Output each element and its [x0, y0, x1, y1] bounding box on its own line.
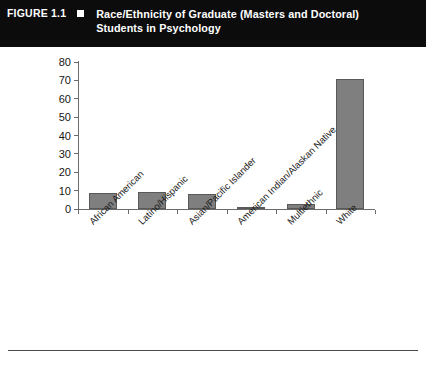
- y-tick-mark: [74, 135, 78, 136]
- x-tick-mark: [78, 210, 79, 214]
- x-tick-mark: [276, 210, 277, 214]
- x-tick-mark: [128, 210, 129, 214]
- bars-group: [78, 62, 375, 209]
- figure-number-label: FIGURE 1.1: [7, 7, 66, 19]
- y-tick-label: 10: [41, 185, 71, 197]
- figure-header-row: FIGURE 1.1 Race/Ethnicity of Graduate (M…: [7, 7, 416, 35]
- figure-title-line-2: Students in Psychology: [96, 22, 221, 34]
- y-tick-mark: [74, 190, 78, 191]
- y-tick-label: 70: [41, 74, 71, 86]
- bar: [336, 79, 364, 209]
- y-tick-label: 30: [41, 148, 71, 160]
- y-tick-label: 80: [41, 56, 71, 68]
- y-tick-mark: [74, 153, 78, 154]
- y-tick-mark: [74, 98, 78, 99]
- bar: [237, 207, 265, 209]
- figure-title-line-1: Race/Ethnicity of Graduate (Masters and …: [96, 8, 359, 20]
- bottom-divider: [8, 350, 418, 351]
- y-tick-50: 50: [41, 111, 78, 123]
- figure-header-banner: FIGURE 1.1 Race/Ethnicity of Graduate (M…: [0, 0, 426, 47]
- x-tick-mark: [375, 210, 376, 214]
- x-tick-mark: [177, 210, 178, 214]
- square-bullet-icon: [77, 10, 84, 17]
- y-tick-label: 20: [41, 166, 71, 178]
- y-tick-label: 40: [41, 130, 71, 142]
- bar: [138, 192, 166, 209]
- y-tick-label: 0: [41, 203, 71, 215]
- x-tick-mark: [326, 210, 327, 214]
- y-tick-0: 0: [41, 203, 78, 215]
- y-tick-60: 60: [41, 93, 78, 105]
- bar: [188, 194, 216, 209]
- y-tick-mark: [74, 117, 78, 118]
- y-tick-80: 80: [41, 56, 78, 68]
- bar: [287, 204, 315, 210]
- y-tick-label: 60: [41, 93, 71, 105]
- figure-title: Race/Ethnicity of Graduate (Masters and …: [96, 7, 359, 35]
- y-tick-20: 20: [41, 166, 78, 178]
- plot-area: 01020304050607080: [78, 62, 375, 209]
- bar: [89, 193, 117, 209]
- y-tick-10: 10: [41, 185, 78, 197]
- x-tick-mark: [227, 210, 228, 214]
- y-tick-label: 50: [41, 111, 71, 123]
- y-tick-30: 30: [41, 148, 78, 160]
- y-tick-70: 70: [41, 74, 78, 86]
- y-tick-40: 40: [41, 130, 78, 142]
- x-axis-ticks: [78, 210, 375, 215]
- y-tick-mark: [74, 172, 78, 173]
- y-tick-mark: [74, 62, 78, 63]
- bar-chart: 01020304050607080 African AmericanLatino…: [0, 47, 426, 347]
- y-tick-mark: [74, 80, 78, 81]
